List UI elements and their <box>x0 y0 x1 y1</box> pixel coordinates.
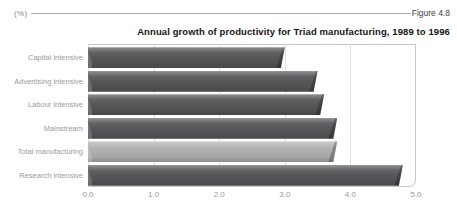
figure-header: (%) Figure 4.8 <box>14 7 450 19</box>
category-label: Capital intensive <box>0 53 88 62</box>
figure-4-8: (%) Figure 4.8 Annual growth of producti… <box>0 0 457 207</box>
bar-track <box>88 165 416 186</box>
figure-number-label: Figure 4.8 <box>412 8 450 18</box>
x-tick-label: 3.0 <box>279 190 290 199</box>
bar-row: Mainstream <box>0 117 416 141</box>
bar-rows: Capital intensiveAdvertising intensiveLa… <box>0 44 416 187</box>
bar-row: Capital intensive <box>0 46 416 70</box>
bar-advertising-intensive <box>88 71 318 92</box>
bar-mainstream <box>88 118 337 139</box>
bar-row: Advertising intensive <box>0 70 416 94</box>
x-tick-label: 4.0 <box>345 190 356 199</box>
category-label: Total manufacturing <box>0 147 88 156</box>
x-tick-label: 5.0 <box>410 190 421 199</box>
chart-title: Annual growth of productivity for Triad … <box>0 26 450 37</box>
bar-track <box>88 47 416 68</box>
bar-track <box>88 141 416 162</box>
category-label: Research intensive <box>0 171 88 180</box>
axis-unit-label: (%) <box>14 9 27 18</box>
category-label: Labour intensive <box>0 100 88 109</box>
bar-track <box>88 94 416 115</box>
bar-research-intensive <box>88 165 403 186</box>
x-tick-label: 0.0 <box>82 190 93 199</box>
bar-track <box>88 118 416 139</box>
bar-capital-intensive <box>88 47 285 68</box>
bar-track <box>88 71 416 92</box>
x-axis-ticks: 0.01.02.03.04.05.0 <box>88 190 416 202</box>
bar-labour-intensive <box>88 94 324 115</box>
bar-row: Research intensive <box>0 164 416 188</box>
x-tick-label: 1.0 <box>148 190 159 199</box>
bar-row: Labour intensive <box>0 93 416 117</box>
header-rule-line <box>31 13 410 14</box>
bar-total-manufacturing <box>88 141 337 162</box>
bar-row: Total manufacturing <box>0 140 416 164</box>
category-label: Mainstream <box>0 124 88 133</box>
category-label: Advertising intensive <box>0 77 88 86</box>
x-tick-label: 2.0 <box>214 190 225 199</box>
